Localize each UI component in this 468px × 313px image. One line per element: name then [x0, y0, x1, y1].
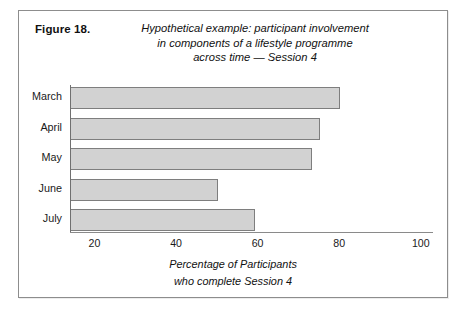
bar-row: May	[70, 148, 433, 170]
x-tick-label: 40	[170, 237, 182, 249]
figure-frame: Figure 18. Hypothetical example: partici…	[18, 10, 448, 298]
figure-title-line-2: in components of a lifestyle programme	[105, 36, 405, 51]
bar-row: July	[70, 209, 433, 231]
bar-category-label: April	[40, 121, 62, 133]
x-axis-caption-line-1: Percentage of Participants	[19, 256, 447, 273]
bar	[71, 209, 255, 231]
x-axis-line	[70, 232, 433, 233]
bar	[71, 148, 312, 170]
bar-category-label: June	[39, 182, 62, 194]
x-tick-label: 100	[412, 237, 430, 249]
x-axis-tick-labels: 20406080100	[70, 237, 433, 253]
x-axis-caption-line-2: who complete Session 4	[19, 273, 447, 290]
figure-title-line-1: Hypothetical example: participant involv…	[105, 21, 405, 36]
bar-row: April	[70, 118, 433, 140]
x-tick-label: 20	[89, 237, 101, 249]
figure-title: Hypothetical example: participant involv…	[105, 21, 405, 65]
bar-row: June	[70, 179, 433, 201]
bar	[71, 179, 218, 201]
bar-row: March	[70, 87, 433, 109]
figure-title-line-3: across time — Session 4	[105, 50, 405, 65]
bar	[71, 118, 320, 140]
bar-chart-plot-area: MarchAprilMayJuneJuly	[70, 85, 433, 233]
bar-category-label: May	[42, 151, 62, 163]
x-tick-label: 60	[252, 237, 264, 249]
x-tick-label: 80	[333, 237, 345, 249]
x-axis-caption: Percentage of Participants who complete …	[19, 256, 447, 290]
figure-number-label: Figure 18.	[35, 23, 90, 35]
bar-category-label: March	[32, 90, 62, 102]
figure-title-block: Figure 18. Hypothetical example: partici…	[19, 21, 447, 73]
bar-category-label: July	[43, 212, 62, 224]
bar	[71, 87, 340, 109]
